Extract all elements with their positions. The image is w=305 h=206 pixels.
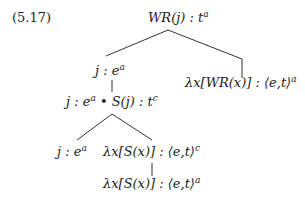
compound-node: j : ea • S(j) : tc — [66, 95, 158, 109]
right-label: λx[WR(x)] : ⟨e,t⟩ — [185, 75, 291, 90]
compound-sup-b: c — [153, 93, 158, 103]
left-sup: a — [119, 62, 124, 72]
compound-label-a: j : e — [66, 94, 90, 109]
root-label: WR(j) : t — [148, 10, 203, 25]
right-sup: a — [291, 74, 296, 84]
left-node: j : ea — [95, 64, 125, 78]
bottom-sup: a — [195, 175, 200, 185]
leaf-left-node: j : ea — [57, 145, 87, 159]
leaf-left-label: j : e — [57, 144, 81, 159]
example-number: (5.17) — [12, 11, 51, 25]
leaf-right-label: λx[S(x)] : ⟨e,t⟩ — [103, 144, 195, 159]
root-node: WR(j) : ta — [148, 11, 209, 25]
left-label: j : e — [95, 63, 119, 78]
leaf-left-sup: a — [81, 143, 86, 153]
leaf-right-sup: c — [195, 143, 200, 153]
leaf-right-node: λx[S(x)] : ⟨e,t⟩c — [103, 145, 200, 159]
root-sup: a — [203, 9, 208, 19]
bottom-node: λx[S(x)] : ⟨e,t⟩a — [103, 177, 200, 191]
right-node: λx[WR(x)] : ⟨e,t⟩a — [185, 76, 297, 90]
bottom-label: λx[S(x)] : ⟨e,t⟩ — [103, 176, 195, 191]
compound-label-b: • S(j) : t — [96, 94, 153, 109]
